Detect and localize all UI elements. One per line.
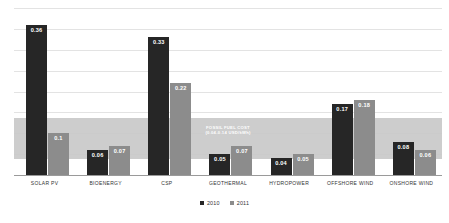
legend-label: 2011 (237, 200, 249, 206)
bar-2011[interactable]: 0.06 (415, 150, 436, 175)
bar-value-label: 0.05 (293, 156, 314, 162)
legend-label: 2010 (207, 200, 220, 206)
legend-swatch-icon (230, 201, 235, 206)
bar-group: 0.360.1 (14, 7, 75, 175)
bar-2010[interactable]: 0.08 (393, 142, 414, 175)
bar-value-label: 0.04 (271, 160, 292, 166)
category-label: ONSHORE WIND (381, 180, 442, 186)
bar-value-label: 0.17 (332, 106, 353, 112)
bar-value-label: 0.1 (48, 135, 69, 141)
category-label: BIOENERGY (75, 180, 136, 186)
bar-value-label: 0.06 (87, 152, 108, 158)
bar-group: 0.060.07 (75, 7, 136, 175)
bar-2011[interactable]: 0.05 (293, 154, 314, 175)
bar-2010[interactable]: 0.06 (87, 150, 108, 175)
bar-value-label: 0.18 (354, 102, 375, 108)
bar-value-label: 0.08 (393, 144, 414, 150)
bar-value-label: 0.07 (109, 148, 130, 154)
category-label: CSP (136, 180, 197, 186)
category-label: SOLAR PV (14, 180, 75, 186)
bar-value-label: 0.33 (148, 39, 169, 45)
bar-group: 0.080.06 (381, 7, 442, 175)
legend-item-2010[interactable]: 2010 (200, 200, 220, 206)
category-label: HYDROPOWER (259, 180, 320, 186)
bar-value-label: 0.22 (170, 85, 191, 91)
legend-item-2011[interactable]: 2011 (230, 200, 249, 206)
bar-2010[interactable]: 0.17 (332, 104, 353, 175)
bar-value-label: 0.06 (415, 152, 436, 158)
bar-group: 0.040.05 (259, 7, 320, 175)
bar-2011[interactable]: 0.22 (170, 83, 191, 175)
chart-legend: 20102011 (0, 200, 449, 206)
bar-2011[interactable]: 0.1 (48, 133, 69, 175)
bars-layer: 0.360.10.060.070.330.220.050.070.040.050… (14, 8, 442, 176)
bar-2011[interactable]: 0.18 (354, 100, 375, 175)
bar-value-label: 0.05 (209, 156, 230, 162)
bar-2011[interactable]: 0.07 (109, 146, 130, 175)
bar-group: 0.170.18 (320, 7, 381, 175)
category-axis: SOLAR PVBIOENERGYCSPGEOTHERMALHYDROPOWER… (14, 180, 442, 194)
bar-value-label: 0.07 (231, 148, 252, 154)
category-label: GEOTHERMAL (197, 180, 258, 186)
bar-2010[interactable]: 0.36 (26, 25, 47, 175)
bar-2010[interactable]: 0.33 (148, 37, 169, 175)
x-axis-line (14, 175, 442, 176)
plot-area: FOSSIL FUEL COST (0.04-0.14 USD/kWh) 0.3… (14, 8, 442, 176)
legend-swatch-icon (200, 201, 205, 206)
bar-chart: FOSSIL FUEL COST (0.04-0.14 USD/kWh) 0.3… (0, 0, 449, 223)
bar-2010[interactable]: 0.04 (271, 158, 292, 175)
bar-2010[interactable]: 0.05 (209, 154, 230, 175)
bar-group: 0.330.22 (136, 7, 197, 175)
bar-2011[interactable]: 0.07 (231, 146, 252, 175)
category-label: OFFSHORE WIND (320, 180, 381, 186)
bar-value-label: 0.36 (26, 27, 47, 33)
bar-group: 0.050.07 (197, 7, 258, 175)
